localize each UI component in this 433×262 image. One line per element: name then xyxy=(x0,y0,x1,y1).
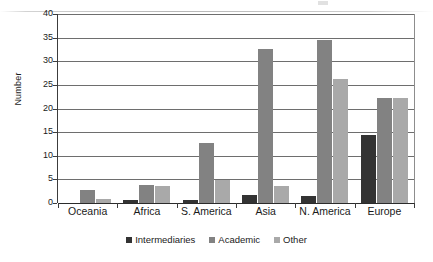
bar[interactable] xyxy=(80,190,95,203)
chart-legend: IntermediariesAcademicOther xyxy=(0,234,433,245)
bar[interactable] xyxy=(301,196,316,203)
bar[interactable] xyxy=(333,79,348,203)
x-tick-mark xyxy=(414,203,415,208)
y-tick-mark xyxy=(53,14,57,15)
scan-artifact xyxy=(318,1,328,5)
y-tick-mark xyxy=(53,109,57,110)
legend-label: Other xyxy=(283,234,307,245)
y-tick-mark xyxy=(53,156,57,157)
y-tick-label: 20 xyxy=(31,104,53,113)
y-tick-label: 40 xyxy=(31,9,53,18)
x-tick-label: Asia xyxy=(236,205,295,217)
y-tick-mark xyxy=(53,132,57,133)
y-tick-label: 0 xyxy=(31,198,53,207)
x-tick-label: S. America xyxy=(177,205,236,217)
y-tick-label: 5 xyxy=(31,174,53,183)
bar-group xyxy=(295,14,354,203)
bar-group xyxy=(117,14,176,203)
legend-item[interactable]: Intermediaries xyxy=(126,234,195,245)
bar[interactable] xyxy=(242,195,257,203)
y-tick-mark xyxy=(53,61,57,62)
y-axis-tick-labels: 0510152025303540 xyxy=(27,14,53,203)
bar[interactable] xyxy=(361,135,376,203)
bar[interactable] xyxy=(139,185,154,203)
y-axis-title: Number xyxy=(13,49,23,129)
bar[interactable] xyxy=(377,98,392,203)
y-tick-label: 15 xyxy=(31,127,53,136)
y-tick-mark xyxy=(53,179,57,180)
y-tick-label: 25 xyxy=(31,80,53,89)
top-rule xyxy=(0,11,433,12)
bar[interactable] xyxy=(393,98,408,203)
bar-group xyxy=(58,14,117,203)
x-tick-label: Oceania xyxy=(58,205,117,217)
legend-item[interactable]: Other xyxy=(274,234,307,245)
bar[interactable] xyxy=(199,143,214,203)
bar-chart: Number 0510152025303540 OceaniaAfricaS. … xyxy=(0,0,433,262)
y-tick-label: 35 xyxy=(31,33,53,42)
legend-label: Academic xyxy=(218,234,260,245)
bar-group xyxy=(236,14,295,203)
legend-swatch-icon xyxy=(274,237,280,243)
bar[interactable] xyxy=(155,186,170,203)
bar[interactable] xyxy=(317,40,332,203)
y-tick-label: 30 xyxy=(31,56,53,65)
x-axis-labels: OceaniaAfricaS. AmericaAsiaN. AmericaEur… xyxy=(58,205,414,217)
x-tick-label: Africa xyxy=(117,205,176,217)
bar-groups xyxy=(58,14,414,203)
y-tick-mark xyxy=(53,85,57,86)
legend-label: Intermediaries xyxy=(135,234,195,245)
bar[interactable] xyxy=(215,180,230,203)
bar[interactable] xyxy=(258,49,273,203)
x-tick-label: N. America xyxy=(295,205,354,217)
legend-swatch-icon xyxy=(126,237,132,243)
y-tick-mark xyxy=(53,203,57,204)
bar-group xyxy=(355,14,414,203)
legend-swatch-icon xyxy=(209,237,215,243)
y-tick-label: 10 xyxy=(31,151,53,160)
bar[interactable] xyxy=(274,186,289,203)
legend-item[interactable]: Academic xyxy=(209,234,260,245)
bar-group xyxy=(177,14,236,203)
x-tick-label: Europe xyxy=(355,205,414,217)
y-tick-mark xyxy=(53,38,57,39)
